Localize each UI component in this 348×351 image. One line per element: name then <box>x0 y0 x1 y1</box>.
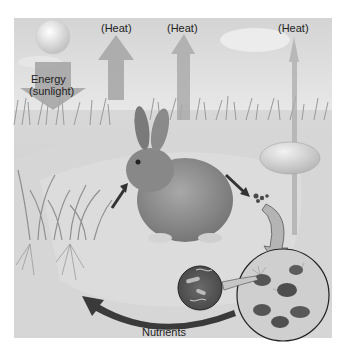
rock <box>260 142 320 174</box>
energy-label: Energy <box>31 73 66 85</box>
nutrients-label: Nutrients <box>142 326 186 338</box>
heat-label-2: (Heat) <box>167 22 198 34</box>
energy-source-label: (sunlight) <box>29 85 74 97</box>
ecosystem-diagram <box>0 0 348 351</box>
decomposer-magnified-circle <box>237 249 329 341</box>
bacteria-magnified-circle <box>178 266 222 310</box>
heat-label-1: (Heat) <box>101 22 132 34</box>
sun <box>36 20 70 54</box>
heat-label-3: (Heat) <box>278 22 309 34</box>
